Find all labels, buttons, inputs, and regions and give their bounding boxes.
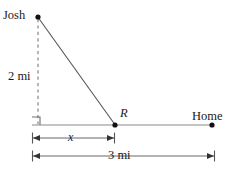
hypotenuse-line (39, 18, 115, 124)
total-distance-label: 3 mi (108, 149, 131, 162)
home-point (209, 122, 214, 127)
r-point (112, 122, 117, 127)
segment-x-label: x (68, 131, 73, 143)
home-label: Home (192, 110, 223, 123)
right-angle-marker (32, 117, 40, 125)
total-dimension-arrow-right (207, 153, 214, 159)
josh-label: Josh (3, 9, 25, 22)
geometry-diagram: Josh 2 mi R Home x 3 mi (0, 0, 236, 169)
josh-point (35, 14, 40, 19)
x-dimension-arrow-left (33, 135, 40, 141)
x-dimension-arrow-right (107, 135, 114, 141)
point-r-label: R (120, 107, 128, 120)
diagram-canvas (0, 0, 236, 169)
vertical-distance-label: 2 mi (8, 70, 31, 83)
total-dimension-arrow-left (33, 153, 40, 159)
